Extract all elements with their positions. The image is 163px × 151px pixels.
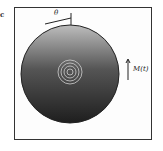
arrow-icon: [126, 59, 130, 80]
magnetization-label: M(t): [133, 65, 148, 73]
angle-label: θ: [54, 9, 58, 17]
disk: [21, 25, 119, 123]
disk-diagram: [0, 0, 163, 151]
